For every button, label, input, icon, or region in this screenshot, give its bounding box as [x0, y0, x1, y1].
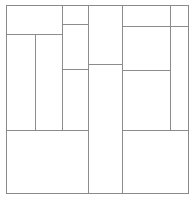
- diagram-canvas: [0, 0, 194, 201]
- cell-center-bottom: [88, 64, 122, 193]
- cell-center-top: [88, 5, 122, 64]
- cell-mid-lower: [62, 69, 88, 130]
- cell-mid-upper: [62, 24, 88, 69]
- cell-right-top-right: [170, 5, 188, 26]
- cell-right-mid-left: [122, 26, 170, 70]
- cell-right-mid-right: [170, 26, 188, 130]
- cell-bottom-left: [6, 130, 88, 193]
- cell-bottom-right: [122, 130, 188, 193]
- cell-right-top-left: [122, 5, 170, 26]
- cell-left-narrow: [6, 34, 35, 130]
- cell-mid-top: [62, 5, 88, 24]
- cell-right-lower: [122, 70, 170, 130]
- cell-top-left: [6, 5, 62, 34]
- cell-left-wide: [35, 34, 62, 130]
